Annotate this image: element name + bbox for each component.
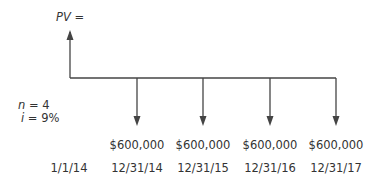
arrowhead-down-icon — [333, 116, 340, 126]
payment-date: 12/31/16 — [244, 161, 296, 175]
payment-amount: $600,000 — [176, 138, 231, 152]
payment-amount: $600,000 — [243, 138, 298, 152]
payment-date: 12/31/15 — [177, 161, 229, 175]
payment-amount: $600,000 — [110, 138, 165, 152]
pv-label: PV = — [56, 10, 84, 24]
arrowhead-down-icon — [267, 116, 274, 126]
payment-date: 12/31/14 — [111, 161, 163, 175]
param-n: n = 4 — [18, 98, 50, 112]
start-date: 1/1/14 — [50, 161, 87, 175]
param-i: i = 9% — [21, 111, 59, 125]
payment-amount: $600,000 — [309, 138, 364, 152]
payment-date: 12/31/17 — [310, 161, 362, 175]
arrowhead-down-icon — [200, 116, 207, 126]
arrowhead-down-icon — [134, 116, 141, 126]
pv-arrowhead-icon — [67, 30, 74, 40]
